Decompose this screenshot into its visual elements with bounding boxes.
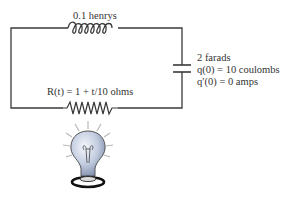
resistor-zigzag-icon	[63, 102, 118, 114]
capacitor-initial-current: q′(0) = 0 amps	[197, 76, 258, 88]
light-bulb-icon	[63, 121, 113, 187]
resistor-label: R(t) = 1 + t/10 ohms	[47, 86, 133, 98]
capacitor-icon	[173, 65, 191, 72]
capacitor-initial-charge: q(0) = 10 coulombs	[197, 64, 280, 76]
circuit-diagram	[0, 0, 289, 206]
inductor-label: 0.1 henrys	[73, 10, 117, 22]
inductor-coil-icon	[68, 22, 112, 33]
capacitor-label: 2 farads	[197, 52, 231, 64]
